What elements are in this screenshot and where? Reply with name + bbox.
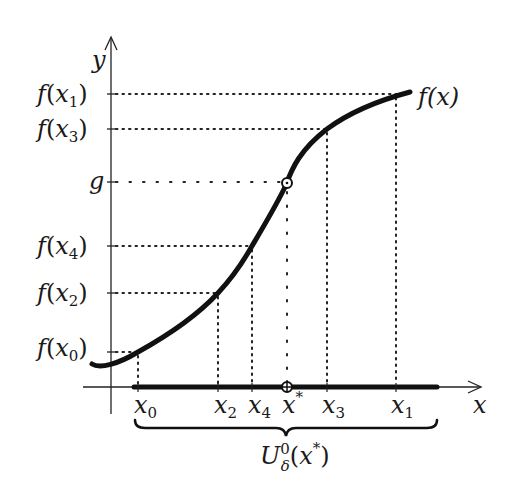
label-g: g	[89, 167, 104, 195]
curve-label: f(x)	[416, 83, 459, 111]
x-tick-labels: x0 x2 x4 x* x3 x1	[134, 388, 414, 422]
vertical-guides	[138, 98, 396, 383]
label-x0: x0	[134, 391, 157, 422]
label-x2: x2	[214, 391, 237, 422]
label-fx1: f(x1)	[35, 80, 88, 111]
label-xstar: x*	[282, 388, 304, 419]
label-x4: x4	[248, 391, 271, 422]
y-tick-labels: f(x1) f(x3) g f(x4) f(x2) f(x0)	[35, 80, 104, 365]
marked-point-g	[282, 178, 292, 188]
label-fx0: f(x0)	[35, 334, 88, 365]
neighborhood-label: U0δ(x*)	[260, 439, 330, 475]
label-fx2: f(x2)	[35, 279, 88, 310]
label-x1: x1	[391, 391, 414, 422]
horizontal-guides	[116, 94, 396, 352]
underbrace	[135, 420, 437, 436]
label-fx4: f(x4)	[35, 232, 88, 263]
y-axis	[105, 37, 117, 414]
function-curve	[92, 92, 410, 366]
label-fx3: f(x3)	[35, 115, 88, 146]
label-x3: x3	[322, 391, 345, 422]
function-diagram: y x f(x) f(x1) f(x3) g f(x4) f(x2) f(x0)…	[0, 0, 514, 493]
y-axis-label: y	[91, 46, 106, 74]
x-axis-label: x	[473, 391, 487, 419]
